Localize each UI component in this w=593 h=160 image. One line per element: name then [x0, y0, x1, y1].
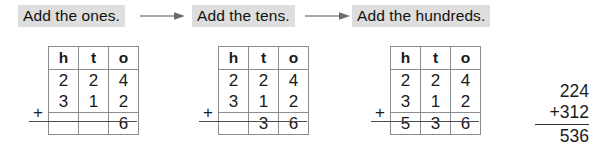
arrow-right-icon [305, 10, 351, 22]
column-header-hundreds: h [219, 47, 249, 70]
vertical-sum-rule [535, 124, 589, 125]
column-header-ones: o [109, 47, 139, 70]
column-header-tens: t [249, 47, 279, 70]
cell-addend-bottom-ones: 2 [109, 91, 139, 113]
cell-addend-bottom-tens: 1 [249, 91, 279, 113]
arrow-right-icon [140, 10, 186, 22]
cell-addend-top-hundreds: 2 [219, 70, 249, 92]
cell-sum-ones: 6 [109, 113, 139, 135]
cell-addend-top-tens: 2 [79, 70, 109, 92]
plus-sign-tens-step: + [203, 104, 213, 121]
cell-addend-top-ones: 4 [279, 70, 309, 92]
table-row-sum: 6 [49, 113, 139, 135]
column-header-hundreds: h [49, 47, 79, 70]
plus-sign-hundreds-step: + [375, 104, 385, 121]
vertical-sum-block: 224 +312 536 [519, 81, 589, 147]
cell-sum-ones: 6 [279, 113, 309, 135]
column-header-ones: o [279, 47, 309, 70]
column-header-ones: o [451, 47, 481, 70]
cell-sum-hundreds: 5 [391, 113, 421, 135]
sum-rule-hundreds-step [371, 121, 479, 122]
cell-addend-bottom-ones: 2 [279, 91, 309, 113]
cell-addend-top-tens: 2 [249, 70, 279, 92]
cell-addend-bottom-hundreds: 3 [219, 91, 249, 113]
table-row-addend-bottom: 3 1 2 [49, 91, 139, 113]
column-header-hundreds: h [391, 47, 421, 70]
cell-sum-ones: 6 [451, 113, 481, 135]
table-row-headers: h t o [49, 47, 139, 70]
table-row-addend-bottom: 3 1 2 [219, 91, 309, 113]
sum-rule-ones-step [29, 121, 137, 122]
step-label-ones: Add the ones. [18, 5, 125, 27]
plus-sign-ones-step: + [33, 104, 43, 121]
cell-sum-hundreds [219, 113, 249, 135]
sum-rule-tens-step [199, 121, 307, 122]
table-row-addend-top: 2 2 4 [219, 70, 309, 92]
vertical-sum-addend-top: 224 [519, 81, 589, 102]
cell-addend-top-ones: 4 [109, 70, 139, 92]
column-header-tens: t [79, 47, 109, 70]
cell-sum-tens: 3 [421, 113, 451, 135]
table-row-addend-top: 2 2 4 [49, 70, 139, 92]
cell-addend-bottom-hundreds: 3 [49, 91, 79, 113]
table-row-sum: 3 6 [219, 113, 309, 135]
step-label-tens: Add the tens. [192, 5, 295, 27]
vertical-sum-total: 536 [519, 126, 589, 147]
table-row-headers: h t o [219, 47, 309, 70]
cell-sum-hundreds [49, 113, 79, 135]
cell-addend-bottom-tens: 1 [421, 91, 451, 113]
cell-addend-top-hundreds: 2 [49, 70, 79, 92]
table-row-addend-top: 2 2 4 [391, 70, 481, 92]
table-row-headers: h t o [391, 47, 481, 70]
steps-header-row: Add the ones. Add the tens. Add the hund… [0, 0, 593, 36]
cell-addend-top-tens: 2 [421, 70, 451, 92]
vertical-sum-addend-bottom: +312 [519, 102, 589, 123]
cell-addend-bottom-hundreds: 3 [391, 91, 421, 113]
cell-addend-top-ones: 4 [451, 70, 481, 92]
table-row-sum: 5 3 6 [391, 113, 481, 135]
cell-addend-bottom-ones: 2 [451, 91, 481, 113]
column-header-tens: t [421, 47, 451, 70]
table-row-addend-bottom: 3 1 2 [391, 91, 481, 113]
cell-sum-tens [79, 113, 109, 135]
cell-addend-top-hundreds: 2 [391, 70, 421, 92]
cell-sum-tens: 3 [249, 113, 279, 135]
step-label-hundreds: Add the hundreds. [352, 5, 490, 27]
cell-addend-bottom-tens: 1 [79, 91, 109, 113]
